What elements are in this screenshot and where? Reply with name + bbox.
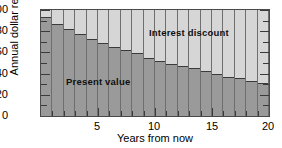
segment-interest-discount bbox=[201, 10, 211, 71]
x-tick-minor-18 bbox=[246, 111, 247, 116]
x-tick-minor-16 bbox=[223, 111, 224, 116]
y-tick-label-40: 40 bbox=[0, 68, 8, 79]
y-tick-major-60 bbox=[41, 52, 50, 53]
segment-interest-discount bbox=[121, 10, 131, 50]
segment-present-value bbox=[144, 58, 154, 116]
series-label-present-value: Present value bbox=[66, 76, 130, 87]
segment-interest-discount bbox=[235, 10, 245, 78]
y-tick-major-40 bbox=[41, 74, 50, 75]
segment-interest-discount bbox=[246, 10, 256, 81]
bar-year-10 bbox=[144, 10, 155, 116]
bar-year-17 bbox=[223, 10, 234, 116]
segment-interest-discount bbox=[64, 10, 74, 29]
x-tick-label-10: 10 bbox=[139, 120, 169, 132]
bar-year-3 bbox=[64, 10, 75, 116]
y-tick-right-major-80 bbox=[260, 31, 269, 32]
segment-present-value bbox=[189, 68, 199, 116]
y-tick-right-minor-30 bbox=[263, 84, 269, 85]
bar-year-6 bbox=[98, 10, 109, 116]
x-tick-major-10 bbox=[155, 108, 156, 116]
bar-year-8 bbox=[121, 10, 132, 116]
segment-present-value bbox=[52, 24, 62, 116]
y-tick-right-minor-70 bbox=[263, 42, 269, 43]
segment-interest-discount bbox=[132, 10, 142, 53]
x-tick-minor-7 bbox=[121, 111, 122, 116]
x-tick-label-15: 15 bbox=[197, 120, 227, 132]
segment-present-value bbox=[41, 17, 51, 116]
y-tick-minor-10 bbox=[41, 105, 47, 106]
x-tick-minor-14 bbox=[201, 111, 202, 116]
segment-interest-discount bbox=[52, 10, 62, 24]
x-tick-label-5: 5 bbox=[82, 120, 112, 132]
y-tick-major-100 bbox=[41, 10, 50, 11]
x-tick-minor-9 bbox=[144, 111, 145, 116]
bar-year-7 bbox=[109, 10, 120, 116]
x-tick-major-15 bbox=[212, 108, 213, 116]
segment-interest-discount bbox=[178, 10, 188, 66]
bar-year-15 bbox=[201, 10, 212, 116]
bar-year-19 bbox=[246, 10, 257, 116]
segment-present-value bbox=[258, 83, 268, 116]
y-tick-right-minor-10 bbox=[263, 105, 269, 106]
segment-present-value bbox=[64, 29, 74, 116]
x-tick-minor-13 bbox=[189, 111, 190, 116]
y-tick-right-minor-50 bbox=[263, 63, 269, 64]
segment-interest-discount bbox=[189, 10, 199, 68]
segment-interest-discount bbox=[212, 10, 222, 74]
y-tick-right-major-40 bbox=[260, 74, 269, 75]
x-tick-minor-8 bbox=[132, 111, 133, 116]
x-tick-minor-3 bbox=[75, 111, 76, 116]
bar-year-16 bbox=[212, 10, 223, 116]
segment-interest-discount bbox=[109, 10, 119, 47]
x-tick-minor-2 bbox=[64, 111, 65, 116]
bar-year-4 bbox=[75, 10, 86, 116]
segment-interest-discount bbox=[87, 10, 97, 39]
y-tick-right-major-20 bbox=[260, 95, 269, 96]
bar-year-13 bbox=[178, 10, 189, 116]
segment-interest-discount bbox=[98, 10, 108, 43]
x-tick-minor-11 bbox=[166, 111, 167, 116]
y-tick-label-100: 100 bbox=[0, 4, 8, 15]
segment-present-value bbox=[132, 53, 142, 116]
bar-year-9 bbox=[132, 10, 143, 116]
y-tick-minor-50 bbox=[41, 63, 47, 64]
y-tick-major-80 bbox=[41, 31, 50, 32]
y-tick-major-20 bbox=[41, 95, 50, 96]
segment-present-value bbox=[155, 61, 165, 116]
y-axis-title: Annual dollar rental bbox=[8, 0, 20, 78]
bar-year-12 bbox=[166, 10, 177, 116]
y-tick-label-80: 80 bbox=[0, 25, 8, 36]
y-tick-right-major-60 bbox=[260, 52, 269, 53]
segment-present-value bbox=[178, 66, 188, 116]
bar-year-18 bbox=[235, 10, 246, 116]
segment-present-value bbox=[201, 71, 211, 116]
bar-year-11 bbox=[155, 10, 166, 116]
y-tick-right-minor-90 bbox=[263, 21, 269, 22]
y-tick-minor-70 bbox=[41, 42, 47, 43]
segment-present-value bbox=[212, 74, 222, 116]
x-tick-minor-1 bbox=[52, 111, 53, 116]
y-tick-major-0 bbox=[41, 116, 50, 117]
bar-year-5 bbox=[87, 10, 98, 116]
segment-present-value bbox=[223, 77, 233, 116]
y-tick-minor-30 bbox=[41, 84, 47, 85]
x-tick-minor-4 bbox=[87, 111, 88, 116]
segment-present-value bbox=[235, 78, 245, 116]
x-tick-label-20: 20 bbox=[253, 120, 282, 132]
segment-interest-discount bbox=[223, 10, 233, 77]
y-tick-label-0: 0 bbox=[0, 110, 8, 121]
x-tick-major-20 bbox=[269, 108, 270, 116]
y-tick-right-major-100 bbox=[260, 10, 269, 11]
segment-present-value bbox=[166, 64, 176, 116]
x-tick-minor-12 bbox=[178, 111, 179, 116]
bar-year-14 bbox=[189, 10, 200, 116]
y-tick-label-60: 60 bbox=[0, 46, 8, 57]
y-tick-right-major-0 bbox=[260, 116, 269, 117]
y-tick-minor-90 bbox=[41, 21, 47, 22]
x-tick-major-5 bbox=[98, 108, 99, 116]
x-tick-minor-17 bbox=[235, 111, 236, 116]
plot-area: Interest discount Present value bbox=[40, 9, 270, 117]
x-tick-minor-6 bbox=[109, 111, 110, 116]
series-label-interest-discount: Interest discount bbox=[149, 27, 229, 38]
segment-interest-discount bbox=[41, 10, 51, 17]
